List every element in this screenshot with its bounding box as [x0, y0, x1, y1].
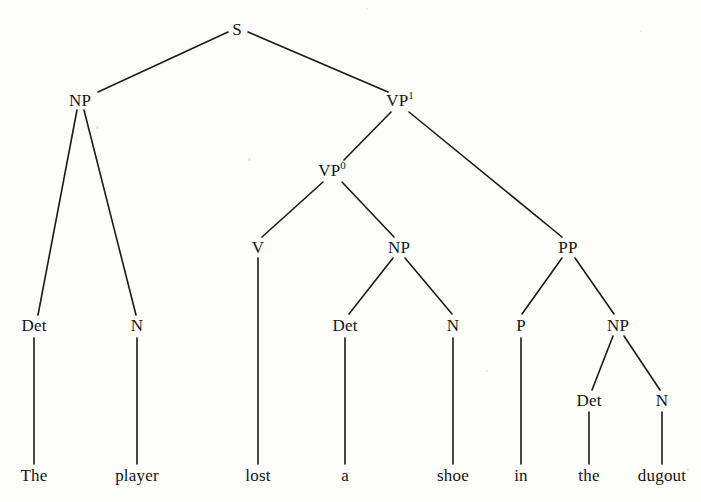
paper-speck [96, 126, 99, 129]
tree-leaf-the1: The [20, 467, 47, 484]
tree-node-np2: NP [388, 239, 410, 256]
tree-edge-vp0-to-v [262, 182, 323, 237]
paper-speck [248, 158, 251, 161]
node-label-text: NP [607, 316, 629, 335]
tree-node-s: S [232, 21, 242, 38]
tree-leaf-shoe: shoe [437, 467, 469, 484]
paper-speck [686, 468, 689, 471]
tree-edge-np2-to-n2 [405, 258, 452, 314]
tree-node-v: V [252, 239, 264, 256]
tree-edge-np3-to-det3 [592, 336, 613, 390]
tree-node-np3: NP [607, 317, 629, 334]
node-label-text: Det [332, 316, 357, 335]
node-label-text: NP [69, 91, 91, 110]
node-label-text: Det [21, 316, 46, 335]
node-label-text: VP [318, 161, 340, 180]
paper-speck [486, 370, 488, 372]
tree-edge-np1-to-det1 [38, 110, 77, 315]
tree-edge-pp-to-np3 [575, 258, 614, 314]
tree-edge-vp1-to-pp [409, 112, 562, 237]
node-label-superscript: 1 [408, 89, 414, 101]
tree-leaf-in: in [514, 467, 528, 484]
tree-node-det2: Det [332, 317, 357, 334]
node-label-text: P [516, 316, 526, 335]
tree-edge-vp0-to-np2 [342, 182, 394, 237]
tree-node-vp1: VP1 [386, 92, 414, 109]
tree-leaf-dugout: dugout [638, 467, 686, 484]
tree-edge-vp1-to-vp0 [344, 112, 391, 160]
tree-node-vp0: VP0 [318, 162, 346, 179]
node-label-text: N [656, 391, 668, 410]
tree-node-pp: PP [558, 239, 577, 256]
tree-diagram-canvas: SNPVP1VP0PPVNPDetNDetNPNPDetN Theplayerl… [0, 0, 701, 502]
node-label-superscript: 0 [340, 159, 346, 171]
node-label-text: N [447, 316, 459, 335]
node-label-text: S [232, 20, 242, 39]
node-label-text: NP [388, 238, 410, 257]
node-label-text: VP [386, 91, 408, 110]
tree-leaf-a: a [341, 467, 349, 484]
tree-edge-np3-to-n3 [624, 336, 660, 390]
tree-edges-layer [0, 0, 701, 502]
node-label-text: PP [558, 238, 577, 257]
paper-speck [366, 8, 368, 10]
tree-node-np1: NP [69, 92, 91, 109]
tree-node-n2: N [447, 317, 459, 334]
tree-edge-s-to-vp1 [248, 32, 388, 92]
tree-edge-np2-to-det2 [349, 258, 393, 314]
tree-node-p: P [516, 317, 526, 334]
tree-leaf-the2: the [578, 467, 599, 484]
tree-node-n3: N [656, 392, 668, 409]
tree-edge-np1-to-n1 [84, 110, 136, 315]
node-label-text: Det [576, 391, 601, 410]
tree-node-n1: N [131, 317, 143, 334]
tree-edge-pp-to-p [522, 258, 562, 314]
tree-edge-s-to-np1 [98, 32, 228, 92]
node-label-text: N [131, 316, 143, 335]
tree-leaf-lost: lost [245, 467, 270, 484]
tree-leaf-player: player [115, 467, 159, 484]
tree-node-det3: Det [576, 392, 601, 409]
paper-speck [640, 30, 642, 32]
node-label-text: V [252, 238, 264, 257]
tree-node-det1: Det [21, 317, 46, 334]
